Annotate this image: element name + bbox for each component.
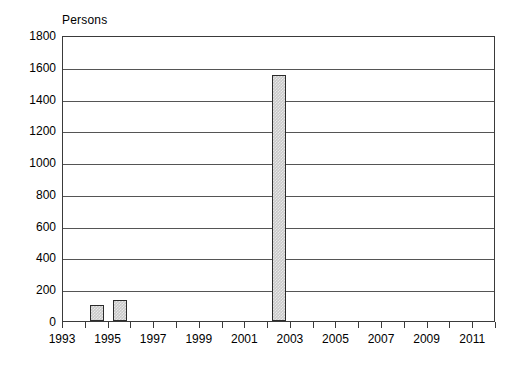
- x-axis-tick: [495, 322, 496, 328]
- x-axis-tick: [244, 322, 245, 328]
- x-axis-tick-labels: 1993199519971999200120032005200720092011: [0, 332, 522, 352]
- x-axis-tick: [222, 322, 223, 328]
- x-axis-tick: [199, 322, 200, 328]
- x-axis-tick: [358, 322, 359, 328]
- y-axis-tick-label: 1000: [4, 157, 56, 169]
- x-axis-tick: [85, 322, 86, 328]
- x-axis-tick: [267, 322, 268, 328]
- gridline: [63, 69, 494, 70]
- y-axis-tick-label: 1200: [4, 125, 56, 137]
- x-axis-tick: [313, 322, 314, 328]
- x-axis-tick: [427, 322, 428, 328]
- bar: [90, 305, 104, 321]
- bar-chart: Persons 02004006008001000120014001600180…: [0, 0, 522, 367]
- x-axis-tick: [62, 322, 63, 328]
- y-axis-tick-label: 200: [4, 284, 56, 296]
- x-axis-tick: [381, 322, 382, 328]
- x-axis-tick-label: 2011: [442, 332, 502, 346]
- y-axis-tick-label: 600: [4, 221, 56, 233]
- y-axis-tick-label: 0: [4, 316, 56, 328]
- y-axis-tick-label: 1800: [4, 30, 56, 42]
- x-axis-tick: [130, 322, 131, 328]
- x-axis-tick: [449, 322, 450, 328]
- x-axis-tick: [176, 322, 177, 328]
- x-axis-tick: [153, 322, 154, 328]
- y-axis-tick-labels: 020040060080010001200140016001800: [0, 36, 56, 322]
- x-axis-tick: [472, 322, 473, 328]
- plot-area: [62, 36, 495, 322]
- y-axis-tick-label: 1400: [4, 94, 56, 106]
- x-axis-ticks: [62, 322, 495, 328]
- y-axis-tick-label: 400: [4, 252, 56, 264]
- y-axis-tick-label: 800: [4, 189, 56, 201]
- y-axis-unit-label: Persons: [62, 13, 107, 27]
- x-axis-tick: [335, 322, 336, 328]
- bar: [272, 75, 286, 321]
- bar: [113, 300, 127, 321]
- x-axis-tick: [404, 322, 405, 328]
- x-axis-tick: [108, 322, 109, 328]
- x-axis-tick: [290, 322, 291, 328]
- y-axis-tick-label: 1600: [4, 62, 56, 74]
